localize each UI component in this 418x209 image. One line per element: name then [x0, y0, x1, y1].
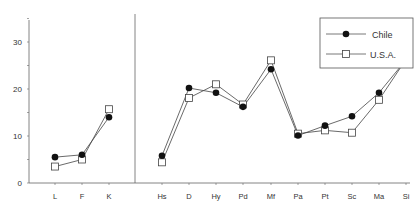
chile-point-marker-icon [295, 132, 302, 139]
x-tick-label-k: K [106, 192, 111, 201]
series-line-chile [162, 60, 406, 156]
x-tick-label-hy: Hy [211, 192, 220, 201]
usa-point-marker-icon [349, 129, 356, 136]
x-tick-label-sc: Sc [348, 192, 357, 201]
x-tick-label-pa: Pa [293, 192, 303, 201]
legend: Chile U.S.A. [320, 18, 413, 68]
y-tick-label: 20 [13, 85, 22, 94]
chile-point-marker-icon [349, 113, 356, 120]
legend-usa-marker-icon [343, 51, 350, 58]
series-line-chile [55, 117, 109, 157]
chile-point-marker-icon [52, 154, 59, 161]
x-tick-label-si: Si [403, 192, 410, 201]
chile-point-marker-icon [106, 114, 113, 121]
line-chart: 0102030LFKHsDHyPdMfPaPtScMaSi Chile U.S.… [0, 0, 418, 209]
y-tick-label: 10 [13, 132, 22, 141]
usa-point-marker-icon [186, 94, 193, 101]
chile-point-marker-icon [159, 152, 166, 159]
chile-point-marker-icon [240, 104, 247, 111]
x-tick-label-ma: Ma [374, 192, 385, 201]
legend-usa-label: U.S.A. [370, 50, 396, 60]
chile-point-marker-icon [268, 66, 275, 73]
usa-point-marker-icon [52, 163, 59, 170]
usa-point-marker-icon [106, 106, 113, 113]
series-line-usa [162, 59, 406, 162]
x-tick-label-pt: Pt [321, 192, 329, 201]
usa-point-marker-icon [213, 81, 220, 88]
x-tick-label-d: D [186, 192, 192, 201]
legend-chile-label: Chile [372, 30, 393, 40]
usa-point-marker-icon [159, 159, 166, 166]
series-layer [52, 56, 410, 170]
chile-point-marker-icon [322, 122, 329, 129]
chile-point-marker-icon [376, 89, 383, 96]
usa-point-marker-icon [376, 96, 383, 103]
x-tick-label-hs: Hs [157, 192, 166, 201]
legend-chile-marker-icon [343, 31, 350, 38]
y-tick-label: 0 [18, 179, 23, 188]
y-tick-label: 30 [13, 38, 22, 47]
x-tick-label-l: L [53, 192, 57, 201]
usa-point-marker-icon [268, 57, 275, 64]
chile-point-marker-icon [213, 89, 220, 96]
legend-box [320, 18, 413, 68]
chile-point-marker-icon [79, 152, 86, 159]
x-tick-label-mf: Mf [267, 192, 276, 201]
chile-point-marker-icon [186, 85, 193, 92]
x-tick-label-pd: Pd [238, 192, 247, 201]
x-tick-label-f: F [80, 192, 85, 201]
